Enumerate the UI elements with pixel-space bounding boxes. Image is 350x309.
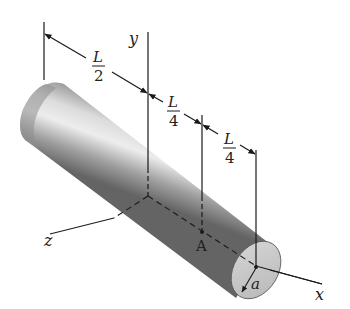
dim-L4b-numerator: L [223, 130, 234, 148]
dim-L4a-arrow-right [184, 114, 201, 124]
radius-label: a [251, 275, 260, 293]
end-center-marker [254, 265, 258, 269]
dim-L2-arrow-right [112, 72, 147, 93]
dim-L4a-arrow-left [149, 94, 163, 102]
dim-L4b-arrow-right [240, 145, 255, 154]
point-A-marker [200, 230, 204, 234]
dim-L2-arrow-left [45, 34, 86, 58]
dim-L2-numerator: L [92, 48, 103, 66]
z-axis-label: z [43, 231, 53, 250]
shaft-diagram: y z x A a L 2 L 4 L 4 [0, 0, 350, 309]
dim-L4b-denominator: 4 [225, 149, 235, 167]
dim-L4a-denominator: 4 [169, 112, 179, 130]
dim-L2-denominator: 2 [94, 67, 104, 85]
dim-L4a-label: L 4 [167, 93, 180, 130]
x-axis-label: x [315, 285, 324, 304]
dim-L4a-numerator: L [167, 93, 178, 111]
z-axis [50, 218, 114, 234]
dim-L4b-label: L 4 [223, 130, 236, 167]
y-axis-label: y [128, 29, 139, 48]
point-A-label: A [195, 237, 207, 255]
dim-L4b-arrow-left [203, 125, 218, 134]
x-axis-out [270, 270, 322, 284]
shaft-body [20, 83, 270, 299]
dim-L2-label: L 2 [92, 48, 105, 85]
